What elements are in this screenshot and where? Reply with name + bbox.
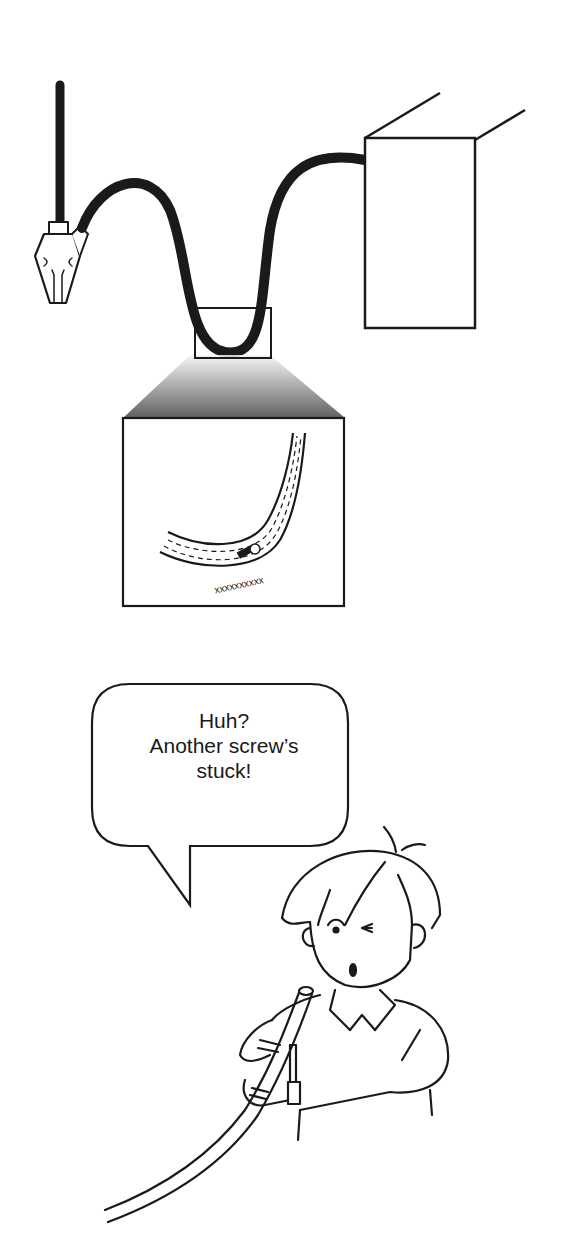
illustration-canvas: xxxxxxxxxx	[0, 0, 561, 1250]
speech-bubble-text: Huh? Another screw’s stuck!	[104, 708, 344, 783]
zoom-projection	[123, 355, 345, 418]
held-tube	[105, 987, 313, 1222]
zoom-inset: xxxxxxxxxx	[123, 418, 344, 606]
light-source-box	[365, 93, 525, 328]
endoscope-tube	[82, 158, 365, 353]
speech-line-3: stuck!	[104, 758, 344, 783]
speech-line-1: Huh?	[104, 708, 344, 733]
endoscope-handle	[35, 85, 88, 303]
speech-line-2: Another screw’s	[104, 733, 344, 758]
